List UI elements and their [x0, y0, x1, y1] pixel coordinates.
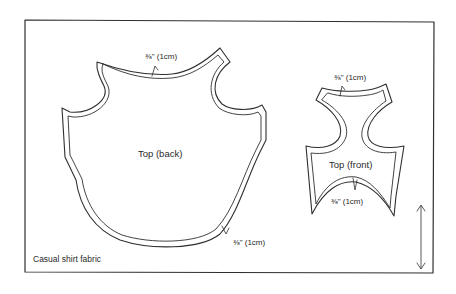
front-hem-sa-marker: [353, 178, 357, 190]
pattern-layout-diagram: ⅜" (1cm) Top (back) ⅜" (1cm) ⅜" (1cm) To…: [0, 0, 456, 294]
front-piece-title: Top (front): [329, 159, 372, 170]
grainline-arrow-icon: [417, 205, 425, 269]
back-hem-sa-label: ⅜" (1cm): [233, 238, 266, 247]
front-neck-sa-label: ⅜" (1cm): [334, 73, 367, 82]
back-neck-sa-label: ⅜" (1cm): [145, 52, 178, 61]
fabric-label: Casual shirt fabric: [33, 254, 102, 264]
back-piece-title: Top (back): [138, 148, 182, 159]
front-hem-sa-label: ⅜" (1cm): [331, 197, 364, 206]
fabric-outline: [25, 20, 434, 273]
